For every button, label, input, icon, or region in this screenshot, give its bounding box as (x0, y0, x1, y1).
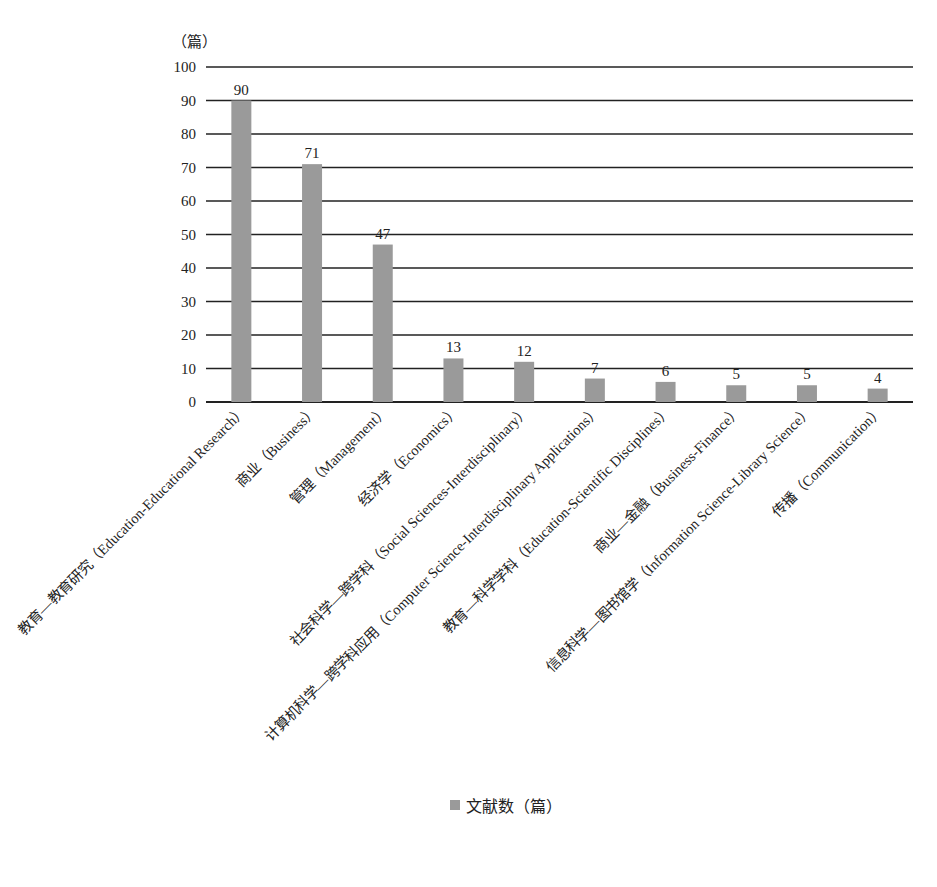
y-tick-label: 60 (181, 193, 196, 209)
bar (656, 382, 676, 402)
y-tick-label: 100 (174, 59, 197, 75)
bar-value-label: 4 (874, 370, 882, 386)
bar-value-label: 7 (591, 360, 599, 376)
bar-value-label: 47 (375, 226, 391, 242)
x-tick-label: 教育—教育研究（Education-Educational Research） (15, 403, 250, 638)
y-tick-label: 50 (181, 227, 196, 243)
bar (726, 385, 746, 402)
bar-value-label: 5 (733, 366, 741, 382)
bar (231, 101, 251, 403)
bar-value-label: 90 (234, 82, 249, 98)
legend-swatch-icon (450, 800, 460, 810)
x-tick-label: 商业—金融（Business-Finance） (591, 403, 744, 556)
bars (231, 101, 887, 403)
y-tick-label: 40 (181, 260, 196, 276)
bar (443, 358, 463, 402)
x-tick-label: 社会科学—跨学科（Social Sciences-Interdisciplina… (286, 403, 532, 649)
y-tick-label: 0 (189, 394, 197, 410)
x-tick-label: 计算机科学—跨学科应用（Computer Science-Interdiscip… (261, 402, 603, 744)
bar-value-label: 71 (305, 145, 320, 161)
bar-value-label: 12 (517, 343, 532, 359)
x-axis-labels: 教育—教育研究（Education-Educational Research）商… (15, 402, 886, 744)
legend-label: 文献数（篇） (466, 793, 562, 817)
bar-chart: 0102030405060708090100 907147131276554 教… (0, 0, 937, 887)
y-tick-label: 10 (181, 361, 196, 377)
bar (868, 389, 888, 402)
bar (302, 164, 322, 402)
x-tick-label: 信息科学—图书馆学（Information Science-Library Sc… (542, 403, 815, 676)
bar (585, 379, 605, 402)
y-tick-label: 80 (181, 126, 196, 142)
bar (797, 385, 817, 402)
y-tick-label: 70 (181, 160, 196, 176)
bar-value-label: 13 (446, 339, 461, 355)
bar-value-label: 6 (662, 363, 670, 379)
y-tick-label: 30 (181, 294, 196, 310)
bar (514, 362, 534, 402)
y-tick-label: 20 (181, 327, 196, 343)
data-labels: 907147131276554 (234, 82, 882, 386)
bar (373, 245, 393, 402)
y-tick-label: 90 (181, 93, 196, 109)
y-axis-ticks: 0102030405060708090100 (174, 59, 197, 410)
legend: 文献数（篇） (450, 793, 562, 817)
bar-value-label: 5 (803, 366, 811, 382)
